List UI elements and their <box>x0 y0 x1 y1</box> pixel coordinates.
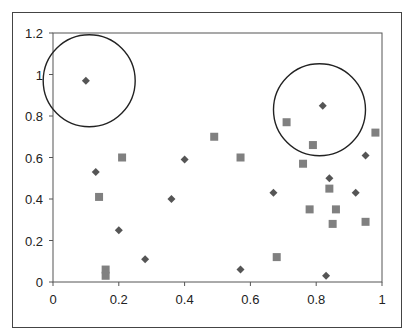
square-marker <box>273 253 281 261</box>
diamond-marker <box>322 272 330 280</box>
x-tick-label: 0.8 <box>307 292 325 307</box>
y-tick-label: 1.2 <box>25 26 43 41</box>
x-tick-label: 0.4 <box>176 292 194 307</box>
x-tick-label: 0.6 <box>241 292 259 307</box>
square-marker <box>325 185 333 193</box>
x-tick-label: 0 <box>49 292 56 307</box>
square-marker <box>329 220 337 228</box>
square-marker <box>332 205 340 213</box>
square-marker <box>362 218 370 226</box>
annotation-circles <box>43 35 365 156</box>
diamond-marker <box>237 266 245 274</box>
x-axis-ticks: 00.20.40.60.81 <box>49 282 385 307</box>
diamond-marker <box>115 226 123 234</box>
square-marker <box>95 193 103 201</box>
diamond-marker <box>325 174 333 182</box>
square-marker <box>371 129 379 137</box>
y-tick-label: 0.2 <box>25 234 43 249</box>
annotation-circle <box>273 64 365 156</box>
diamond-marker <box>352 189 360 197</box>
square-marker <box>283 118 291 126</box>
y-tick-label: 1 <box>36 68 43 83</box>
square-marker <box>237 154 245 162</box>
diamond-marker <box>269 189 277 197</box>
y-tick-label: 0.8 <box>25 109 43 124</box>
diamond-marker <box>92 168 100 176</box>
plot-area <box>53 33 382 282</box>
y-axis-ticks: 00.20.40.60.811.2 <box>25 26 53 290</box>
x-tick-label: 0.2 <box>110 292 128 307</box>
square-marker <box>306 205 314 213</box>
square-marker <box>118 154 126 162</box>
diamond-marker <box>362 151 370 159</box>
y-tick-label: 0.4 <box>25 192 43 207</box>
y-tick-label: 0 <box>36 275 43 290</box>
square-marker <box>210 133 218 141</box>
square-marker <box>102 272 110 280</box>
y-tick-label: 0.6 <box>25 151 43 166</box>
diamond-marker <box>181 156 189 164</box>
x-tick-label: 1 <box>378 292 385 307</box>
diamond-marker <box>167 195 175 203</box>
diamond-marker <box>82 77 90 85</box>
scatter-chart: 00.20.40.60.81 00.20.40.60.811.2 <box>0 0 414 336</box>
diamond-marker <box>141 255 149 263</box>
square-marker <box>309 141 317 149</box>
square-marker <box>299 160 307 168</box>
plot-border <box>53 33 382 282</box>
diamond-marker <box>319 102 327 110</box>
